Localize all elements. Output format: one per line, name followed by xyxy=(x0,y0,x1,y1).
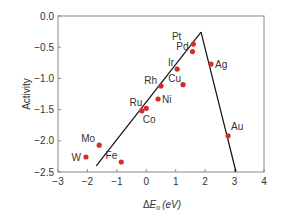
volcano-left-branch xyxy=(96,32,201,166)
point-ir: Ir xyxy=(168,57,180,72)
point-mo: Mo xyxy=(81,133,102,148)
x-tick-label: −3 xyxy=(52,176,64,187)
point-marker xyxy=(158,83,163,88)
point-marker xyxy=(175,66,180,71)
point-ag: Ag xyxy=(208,59,227,70)
point-label: Au xyxy=(231,121,243,132)
point-marker xyxy=(83,154,88,159)
point-marker xyxy=(180,82,185,87)
x-tick-label: −2 xyxy=(82,176,94,187)
point-ni: Ni xyxy=(155,94,171,105)
point-marker xyxy=(155,96,160,101)
point-w: W xyxy=(72,152,89,163)
volcano-plot: 0.0−0.5−1.0−1.5−2.0−2.5 −3−2−101234 PtPd… xyxy=(0,0,282,218)
point-label: Fe xyxy=(106,150,118,161)
point-marker xyxy=(139,108,144,113)
point-label: Co xyxy=(143,114,156,125)
x-tick-label: 2 xyxy=(202,176,208,187)
x-axis-label: ΔEo(eV) xyxy=(143,199,181,211)
x-tick-label: 3 xyxy=(232,176,238,187)
y-tick-label: 0.0 xyxy=(40,11,54,22)
y-tick-label: −0.5 xyxy=(34,42,54,53)
point-cu: Cu xyxy=(168,73,185,88)
point-co: Co xyxy=(139,108,156,125)
plot-border xyxy=(58,16,264,172)
point-label: Cu xyxy=(168,73,181,84)
point-label: Ni xyxy=(162,94,171,105)
point-label: Mo xyxy=(81,133,95,144)
point-marker xyxy=(208,61,213,66)
point-rh: Rh xyxy=(144,75,163,89)
x-tick-label: −1 xyxy=(111,176,123,187)
y-axis: 0.0−0.5−1.0−1.5−2.0−2.5 xyxy=(34,11,61,178)
x-tick-label: 0 xyxy=(144,176,150,187)
volcano-right-branch xyxy=(201,32,236,172)
x-label-units: (eV) xyxy=(162,199,181,210)
point-label: Rh xyxy=(144,75,157,86)
point-label: W xyxy=(72,152,82,163)
point-label: Ag xyxy=(215,59,227,70)
point-fe: Fe xyxy=(106,150,124,165)
point-marker xyxy=(119,159,124,164)
x-tick-label: 4 xyxy=(261,176,267,187)
point-marker xyxy=(144,106,149,111)
y-axis-label: Activity xyxy=(21,78,32,110)
y-tick-label: −1.0 xyxy=(34,73,54,84)
point-label: Ru xyxy=(129,97,142,108)
point-au: Au xyxy=(225,121,243,139)
y-tick-label: −1.5 xyxy=(34,104,54,115)
point-label: Pd xyxy=(176,41,188,52)
point-ru: Ru xyxy=(129,97,148,111)
x-label-sub: o xyxy=(156,204,160,211)
point-marker xyxy=(97,143,102,148)
point-marker xyxy=(190,49,195,54)
y-tick-label: −2.0 xyxy=(34,135,54,146)
point-label: Ir xyxy=(168,57,175,68)
plot-frame xyxy=(58,16,264,172)
point-marker xyxy=(191,41,196,46)
point-marker xyxy=(225,133,230,138)
x-tick-label: 1 xyxy=(173,176,179,187)
